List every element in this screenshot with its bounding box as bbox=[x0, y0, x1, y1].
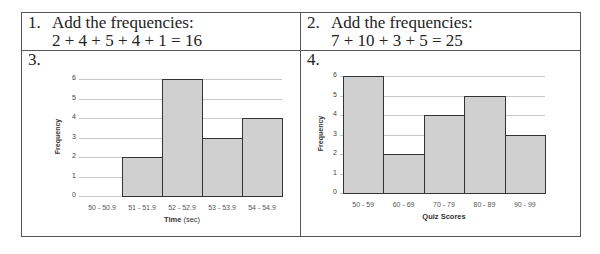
y-tick-label: 1 bbox=[327, 169, 337, 176]
y-tick-label: 3 bbox=[66, 133, 76, 140]
y-tick-label: 3 bbox=[327, 130, 337, 137]
y-axis-title: Frequency bbox=[54, 111, 61, 161]
x-axis-title-bold: Time bbox=[164, 215, 181, 224]
x-axis-title: Quiz Scores bbox=[343, 212, 545, 221]
item-number: 2. bbox=[307, 14, 331, 32]
y-axis-title: Frequency bbox=[317, 108, 324, 158]
y-tick-label: 2 bbox=[327, 149, 337, 156]
x-tick-label: 53 - 53.9 bbox=[202, 204, 242, 211]
histogram-bar bbox=[505, 135, 546, 195]
histogram-bar bbox=[383, 154, 424, 194]
x-tick-label: 50 - 50.9 bbox=[82, 204, 122, 211]
y-tick-label: 1 bbox=[66, 172, 76, 179]
histogram-bar bbox=[424, 115, 465, 194]
row-divider bbox=[22, 50, 580, 51]
column-divider bbox=[300, 13, 301, 236]
y-tick-label: 4 bbox=[327, 110, 337, 117]
x-tick-label: 70 - 79 bbox=[424, 201, 464, 208]
x-tick-label: 52 - 52.9 bbox=[162, 204, 202, 211]
item-number: 1. bbox=[28, 14, 52, 32]
x-axis-title-unit: (sec) bbox=[181, 215, 200, 224]
histogram-bar bbox=[343, 76, 384, 194]
y-tick-label: 6 bbox=[66, 74, 76, 81]
y-tick-label: 4 bbox=[66, 113, 76, 120]
x-tick-label: 60 - 69 bbox=[383, 201, 423, 208]
histogram-bar bbox=[162, 79, 203, 197]
histogram-time: 012345650 - 50.951 - 51.952 - 52.953 - 5… bbox=[54, 73, 284, 233]
x-tick-label: 50 - 59 bbox=[343, 201, 383, 208]
answer-cell-1: 1.Add the frequencies: 2 + 4 + 5 + 4 + 1… bbox=[28, 14, 202, 50]
cell-3-number: 3. bbox=[28, 51, 41, 69]
y-tick-label: 0 bbox=[327, 188, 337, 195]
answer-equation: 2 + 4 + 5 + 4 + 1 = 16 bbox=[52, 31, 202, 50]
histogram-bar bbox=[464, 96, 505, 195]
histogram-bar bbox=[242, 118, 283, 197]
histogram-bar bbox=[122, 157, 163, 197]
x-tick-label: 51 - 51.9 bbox=[122, 204, 162, 211]
answer-table: 1.Add the frequencies: 2 + 4 + 5 + 4 + 1… bbox=[21, 12, 581, 237]
x-tick-label: 54 - 54.9 bbox=[242, 204, 282, 211]
y-tick-label: 2 bbox=[66, 152, 76, 159]
y-tick-label: 6 bbox=[327, 71, 337, 78]
histogram-bar bbox=[202, 138, 243, 198]
x-axis-title: Time (sec) bbox=[82, 215, 282, 224]
answer-heading: Add the frequencies: bbox=[331, 13, 473, 32]
answer-heading: Add the frequencies: bbox=[52, 13, 194, 32]
x-tick-label: 90 - 99 bbox=[505, 201, 545, 208]
cell-4-number: 4. bbox=[307, 51, 320, 69]
histogram-quiz-scores: 012345650 - 5960 - 6970 - 7980 - 8990 - … bbox=[317, 70, 547, 230]
answer-equation: 7 + 10 + 3 + 5 = 25 bbox=[331, 31, 463, 50]
y-tick-label: 5 bbox=[66, 94, 76, 101]
y-tick-label: 0 bbox=[66, 191, 76, 198]
answer-cell-2: 2.Add the frequencies: 7 + 10 + 3 + 5 = … bbox=[307, 14, 473, 50]
x-tick-label: 80 - 89 bbox=[464, 201, 504, 208]
y-tick-label: 5 bbox=[327, 91, 337, 98]
